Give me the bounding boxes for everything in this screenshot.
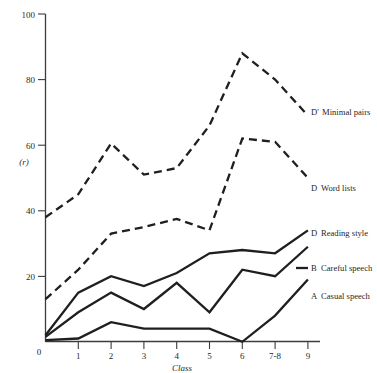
series-label-careful-speech-text: Careful speech <box>321 263 373 273</box>
x-axis-tick-labels: 1 2 3 4 5 6 7-8 9 <box>76 351 311 361</box>
x-tick-label-9: 9 <box>306 351 311 361</box>
series-line-minimal-pairs <box>46 53 308 217</box>
series-label-casual-speech-code: A <box>311 291 318 301</box>
y-axis-tick-labels: 100 80 60 40 20 0 <box>22 10 42 358</box>
x-tick-label-3: 3 <box>142 351 147 361</box>
series-labels: D' Minimal pairs D Word lists D Reading … <box>311 107 373 301</box>
y-tick-label-80: 80 <box>26 75 36 85</box>
y-tick-label-20: 20 <box>26 272 36 282</box>
x-tick-label-1: 1 <box>76 351 81 361</box>
y-tick-label-100: 100 <box>22 10 36 20</box>
x-axis-ticks <box>78 342 308 350</box>
x-axis-title: Class <box>172 363 193 373</box>
x-tick-label-4: 4 <box>174 351 179 361</box>
series-label-casual-speech-text: Casual speech <box>321 291 371 301</box>
y-axis-title: (r) <box>19 157 29 167</box>
series-label-minimal-pairs-code: D' <box>311 107 319 117</box>
y-axis-ticks <box>38 14 46 276</box>
x-tick-label-5: 5 <box>207 351 212 361</box>
series-label-word-lists-text: Word lists <box>321 183 357 193</box>
series-label-minimal-pairs-text: Minimal pairs <box>322 107 371 117</box>
y-tick-label-60: 60 <box>26 141 36 151</box>
x-tick-label-6: 6 <box>240 351 245 361</box>
y-tick-label-40: 40 <box>26 206 36 216</box>
series-label-reading-style-text: Reading style <box>321 228 368 238</box>
x-tick-label-2: 2 <box>109 351 114 361</box>
series-label-word-lists-code: D <box>311 183 317 193</box>
series-label-reading-style-code: D <box>311 228 317 238</box>
y-tick-label-0: 0 <box>37 347 42 357</box>
series-line-careful-speech <box>46 247 308 337</box>
series-label-careful-speech-code: B <box>311 263 317 273</box>
x-tick-label-7-8: 7-8 <box>269 351 281 361</box>
chart-figure: 100 80 60 40 20 0 (r) 1 2 3 4 5 6 <box>0 0 377 373</box>
line-chart-svg: 100 80 60 40 20 0 (r) 1 2 3 4 5 6 <box>0 0 377 373</box>
